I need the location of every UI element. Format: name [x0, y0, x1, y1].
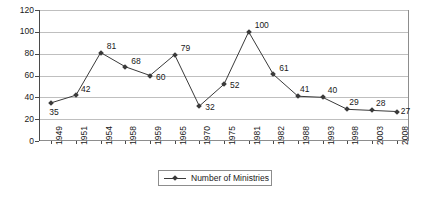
y-tick-label: 60	[0, 71, 34, 80]
data-point-label: 28	[376, 99, 385, 108]
data-point-label: 27	[401, 107, 410, 116]
x-tick-label: 1954	[105, 126, 114, 145]
data-point-label: 79	[181, 44, 190, 53]
x-tick-label: 1949	[55, 126, 64, 145]
y-tick-label: 0	[0, 137, 34, 146]
data-point-label: 68	[131, 57, 140, 66]
x-tick-mark	[150, 141, 151, 144]
gridline	[40, 119, 408, 120]
y-tick-label: 100	[0, 27, 34, 36]
y-tick-label: 120	[0, 6, 34, 15]
data-point-label: 40	[328, 86, 337, 95]
x-tick-mark	[372, 141, 373, 144]
y-tick-mark	[35, 141, 39, 142]
y-tick-mark	[35, 76, 39, 77]
data-point-label: 81	[107, 42, 116, 51]
x-tick-mark	[101, 141, 102, 144]
y-tick-label: 20	[0, 115, 34, 124]
y-tick-mark	[35, 10, 39, 11]
legend-marker-icon	[164, 174, 186, 183]
x-tick-mark	[51, 141, 52, 144]
gridline	[40, 76, 408, 77]
y-tick-mark	[35, 54, 39, 55]
data-point-label: 41	[300, 85, 309, 94]
x-tick-label: 1982	[277, 126, 286, 145]
data-point-label: 29	[349, 98, 358, 107]
gridline	[40, 32, 408, 33]
x-tick-label: 1998	[351, 126, 360, 145]
y-axis-line	[39, 10, 40, 141]
x-tick-mark	[273, 141, 274, 144]
data-point-label: 100	[255, 21, 269, 30]
gridline	[40, 10, 408, 11]
x-tick-mark	[175, 141, 176, 144]
y-tick-label: 40	[0, 93, 34, 102]
gridline	[40, 54, 408, 55]
x-tick-label: 1970	[203, 126, 212, 145]
x-tick-label: 1988	[302, 126, 311, 145]
y-tick-label: 80	[0, 49, 34, 58]
y-tick-mark	[35, 97, 39, 98]
data-point-label: 32	[205, 103, 214, 112]
x-tick-mark	[397, 141, 398, 144]
x-tick-mark	[298, 141, 299, 144]
x-tick-mark	[199, 141, 200, 144]
x-tick-label: 2003	[376, 126, 385, 145]
line-chart: 020406080100120 194919511954195819591965…	[0, 0, 424, 204]
plot-area	[39, 10, 409, 141]
legend-label-number-of-ministries: Number of Ministries	[191, 173, 269, 183]
x-tick-label: 1993	[327, 126, 336, 145]
data-point-label: 60	[156, 73, 165, 82]
x-tick-mark	[347, 141, 348, 144]
x-tick-label: 1958	[129, 126, 138, 145]
x-tick-mark	[249, 141, 250, 144]
x-tick-label: 1959	[154, 126, 163, 145]
data-point-label: 35	[49, 108, 58, 117]
y-tick-mark	[35, 119, 39, 120]
y-tick-mark	[35, 32, 39, 33]
x-tick-label: 1975	[228, 126, 237, 145]
x-tick-mark	[125, 141, 126, 144]
x-tick-mark	[224, 141, 225, 144]
x-tick-label: 1951	[80, 126, 89, 145]
x-tick-label: 2008	[401, 126, 410, 145]
x-tick-label: 1981	[253, 126, 262, 145]
data-point-label: 61	[279, 64, 288, 73]
x-tick-mark	[76, 141, 77, 144]
data-point-label: 52	[230, 81, 239, 90]
data-point-label: 42	[81, 85, 90, 94]
legend: Number of Ministries	[158, 170, 272, 186]
x-tick-mark	[323, 141, 324, 144]
x-tick-label: 1965	[179, 126, 188, 145]
